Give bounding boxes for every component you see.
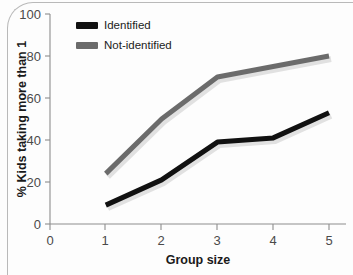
legend-label-identified: Identified: [104, 19, 151, 31]
legend-item-identified: Identified: [76, 19, 151, 31]
chart-canvas: 0 20 40 60 80 100 % Kids taking more tha…: [0, 0, 353, 275]
y-axis: 0 20 40 60 80 100 % Kids taking more tha…: [15, 7, 50, 232]
x-tick-label-4: 4: [269, 233, 276, 248]
chart-page: 0 20 40 60 80 100 % Kids taking more tha…: [0, 0, 353, 275]
y-tick-label-100: 100: [19, 7, 41, 22]
x-tick-label-2: 2: [157, 233, 164, 248]
x-axis-tick-labels: 0 1 2 3 4 5: [46, 233, 332, 248]
series-line-not-identified: [106, 56, 329, 174]
y-axis-ticks: [45, 14, 50, 224]
x-tick-label-1: 1: [101, 233, 108, 248]
line-chart: 0 20 40 60 80 100 % Kids taking more tha…: [0, 0, 353, 275]
x-axis-ticks: [50, 224, 329, 230]
legend-swatch-not-identified: [76, 42, 98, 49]
x-axis-title: Group size: [166, 253, 231, 267]
x-tick-label-5: 5: [325, 233, 332, 248]
y-tick-label-0: 0: [34, 217, 41, 232]
chart-legend: Identified Not-identified: [76, 19, 172, 51]
x-tick-label-0: 0: [46, 233, 53, 248]
legend-swatch-identified: [76, 22, 98, 29]
legend-item-not-identified: Not-identified: [76, 39, 172, 51]
series-group: [106, 56, 331, 208]
x-axis: 0 1 2 3 4 5 Group size: [46, 224, 346, 267]
y-axis-title: % Kids taking more than 1: [15, 41, 29, 197]
x-tick-label-3: 3: [213, 233, 220, 248]
legend-label-not-identified: Not-identified: [104, 39, 172, 51]
series-line-identified: [106, 113, 329, 205]
